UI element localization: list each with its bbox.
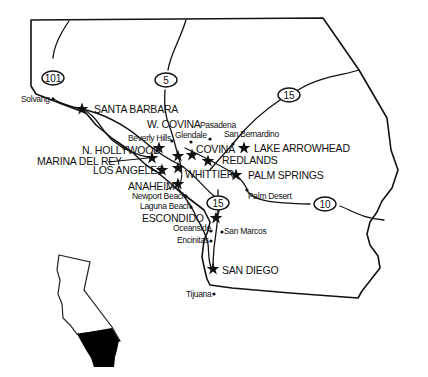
city-label-beverly-hills: Beverly Hills [128,133,171,143]
star-icon-whittier [172,162,185,174]
city-label-lake-arrowhead: LAKE ARROWHEAD [254,142,350,154]
city-label-solvang: Solvang [21,94,50,104]
southern-california-map: 101 5 15 15 10 SANTA BARBARA W. COVINA N… [0,0,428,377]
city-label-laguna-beach: Laguna Beach [140,201,192,211]
star-icon-w-covina [172,150,185,162]
svg-text:101: 101 [45,73,62,84]
svg-text:10: 10 [319,199,331,210]
highway-shield-15-north: 15 [278,88,300,102]
city-label-redlands: REDLANDS [222,154,278,166]
svg-text:15: 15 [212,198,224,209]
city-label-palm-springs: PALM SPRINGS [248,169,324,181]
city-label-oceanside: Oceanside [173,223,212,233]
city-label-san-diego: SAN DIEGO [222,264,279,276]
city-label-newport-beach: Newport Beach [132,191,187,201]
city-label-encinitas: Encinitas [177,235,209,245]
southern-california-highlight [77,328,119,367]
city-label-w-covina: W. COVINA [147,118,201,130]
highway-shield-101: 101 [42,71,64,85]
highway-shield-5: 5 [155,73,177,87]
dot-icon-encinitas [209,239,212,242]
highway-shield-10: 10 [314,197,336,211]
california-locator-inset [57,255,120,367]
star-icon-san-diego [207,263,220,275]
city-label-los-angeles: LOS ANGELES [93,164,164,176]
dot-icon-glendale [189,140,192,143]
city-label-santa-barbara: SANTA BARBARA [94,103,178,115]
star-icon-redlands [202,155,215,167]
highway-shield-15-south: 15 [207,196,229,210]
city-label-palm-desert: Palm Desert [248,191,292,201]
city-label-tijuana: Tijuana [186,289,212,299]
svg-text:5: 5 [163,75,169,86]
dot-icon-san-bernardino [231,142,234,145]
city-label-san-marcos: San Marcos [224,226,266,236]
city-label-glendale: Glendale [175,130,207,140]
dot-icon-tijuana [212,292,215,295]
dot-icon-solvang [51,97,54,100]
star-icon-escondido [210,212,223,224]
dot-icon-pasadena [208,137,211,140]
city-label-whittier: WHITTIER [185,168,235,180]
svg-text:15: 15 [283,90,295,101]
city-label-san-bernardino: San Bernardino [224,129,279,139]
dot-icon-beverly-hills [170,139,173,142]
star-icon-lake-arrowhead [238,142,251,154]
